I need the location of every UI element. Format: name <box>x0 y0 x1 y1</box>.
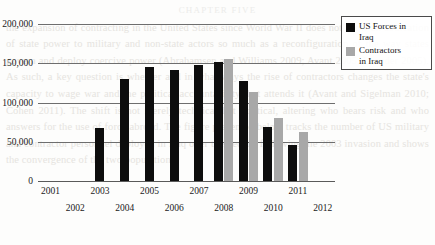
gridline <box>38 63 335 64</box>
bar-contractors-2011 <box>299 132 308 181</box>
bar-us-forces-2003 <box>95 128 104 181</box>
x-axis-tick-label: 2006 <box>165 203 184 213</box>
x-axis-tick-label: 2007 <box>189 186 208 196</box>
bar-us-forces-2007 <box>194 65 203 181</box>
gridline <box>38 142 335 143</box>
legend-item-contractors: Contractors in Iraq <box>346 45 428 67</box>
bar-us-forces-2009 <box>239 81 248 181</box>
legend-item-us-forces: US Forces in Iraq <box>346 21 428 43</box>
x-axis-tick-label: 2010 <box>264 203 283 213</box>
y-axis-tick-label: 100,000 <box>2 98 33 108</box>
legend-swatch-contractors <box>346 47 355 56</box>
x-axis-tick-label: 2001 <box>41 186 60 196</box>
x-axis-tick-label: 2011 <box>289 186 308 196</box>
legend-swatch-us-forces <box>346 23 355 32</box>
gridline <box>38 103 335 104</box>
gridline <box>38 24 335 25</box>
y-axis-tick-label: 200,000 <box>2 19 33 29</box>
chart-legend: US Forces in Iraq Contractors in Iraq <box>341 16 432 70</box>
x-axis-line <box>38 181 335 182</box>
bar-us-forces-2008 <box>214 62 223 181</box>
bar-contractors-2008 <box>224 59 233 181</box>
y-axis-tick-label: 50,000 <box>7 137 33 147</box>
bar-us-forces-2004 <box>120 79 129 181</box>
x-axis-tick-label: 2002 <box>66 203 85 213</box>
y-axis-tick-label: 0 <box>28 176 33 186</box>
bar-us-forces-2011 <box>288 145 297 181</box>
chart-figure: CHAPTER FIVE the expansion of contractin… <box>0 0 435 245</box>
y-axis-tick-label: 150,000 <box>2 58 33 68</box>
x-axis-tick-label: 2005 <box>140 186 159 196</box>
bar-us-forces-2005 <box>145 67 154 181</box>
x-axis-tick-label: 2008 <box>214 203 233 213</box>
x-axis-tick-label: 2003 <box>90 186 109 196</box>
legend-label-us-forces: US Forces in Iraq <box>359 21 406 43</box>
legend-label-contractors: Contractors in Iraq <box>359 45 401 67</box>
bar-contractors-2010 <box>274 118 283 181</box>
bar-contractors-2009 <box>249 92 258 181</box>
x-axis-tick-label: 2004 <box>115 203 134 213</box>
x-axis-tick-label: 2012 <box>313 203 332 213</box>
bar-us-forces-2006 <box>170 70 179 181</box>
bar-us-forces-2010 <box>263 127 272 181</box>
x-axis-tick-label: 2009 <box>239 186 258 196</box>
